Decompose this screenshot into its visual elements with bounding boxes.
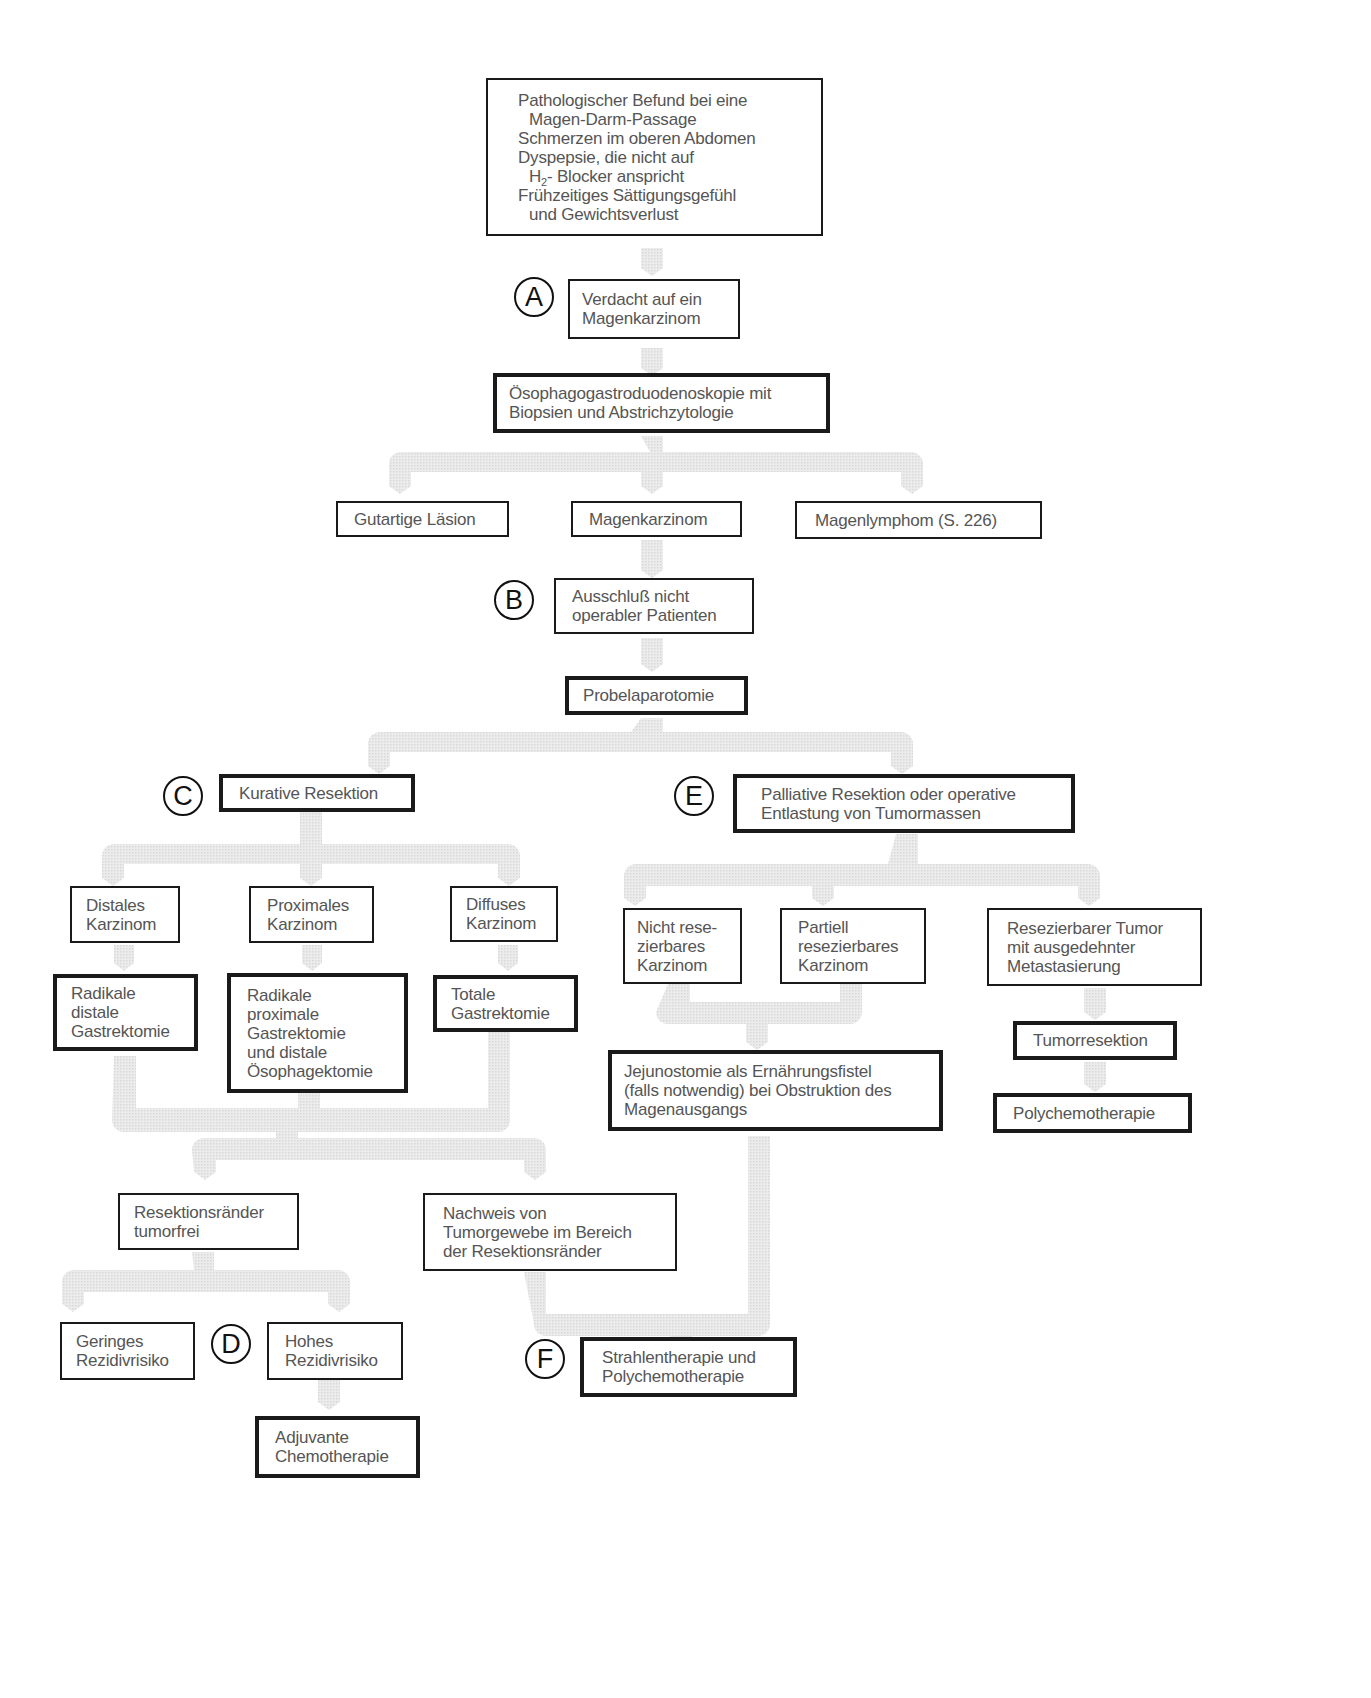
- node-text: tumorfrei: [134, 1222, 297, 1241]
- node-text: Distales: [86, 896, 178, 915]
- node-text: Tumorresektion: [1033, 1031, 1173, 1050]
- node-text: Nachweis von: [443, 1204, 675, 1223]
- node-curative-resection: Kurative Resektion: [219, 774, 415, 812]
- node-text: Totale: [451, 985, 574, 1004]
- node-text: Metastasierung: [1007, 957, 1200, 976]
- node-margins-tumor-free: Resektionsränder tumorfrei: [118, 1193, 299, 1250]
- node-text: Ösophagektomie: [247, 1062, 404, 1081]
- node-endoscopy: Ösophagogastroduodenoskopie mit Biopsien…: [493, 373, 830, 433]
- node-text: distale: [71, 1003, 194, 1022]
- marker-b: B: [494, 580, 534, 620]
- node-probelaparotomy: Probelaparotomie: [565, 676, 748, 715]
- node-text: operabler Patienten: [572, 606, 752, 625]
- node-text: Rezidivrisiko: [76, 1351, 193, 1370]
- node-non-resectable: Nicht rese- zierbares Karzinom: [623, 908, 742, 984]
- node-text: Resezierbarer Tumor: [1007, 919, 1200, 938]
- node-text: Palliative Resektion oder operative: [761, 785, 1071, 804]
- node-text: Karzinom: [466, 914, 556, 933]
- node-text: Verdacht auf ein: [582, 290, 738, 309]
- symptom-line: Dyspepsie, die nicht auf: [518, 148, 821, 167]
- node-text: (falls notwendig) bei Obstruktion des: [624, 1081, 939, 1100]
- connector-layer: [0, 0, 1371, 1698]
- node-text: Karzinom: [267, 915, 372, 934]
- node-text: Entlastung von Tumormassen: [761, 804, 1071, 823]
- node-diffuse-carcinoma: Diffuses Karzinom: [450, 886, 558, 942]
- node-text: Geringes: [76, 1332, 193, 1351]
- node-text: Adjuvante: [275, 1428, 416, 1447]
- node-text: Hohes: [285, 1332, 401, 1351]
- node-text: Chemotherapie: [275, 1447, 416, 1466]
- node-text: Rezidivrisiko: [285, 1351, 401, 1370]
- node-palliative-resection: Palliative Resektion oder operative Entl…: [733, 774, 1075, 833]
- node-text: Kurative Resektion: [239, 784, 411, 803]
- node-adjuvant-chemotherapy: Adjuvante Chemotherapie: [255, 1416, 420, 1478]
- marker-a: A: [514, 277, 554, 317]
- node-text: mit ausgedehnter: [1007, 938, 1200, 957]
- node-low-recurrence-risk: Geringes Rezidivrisiko: [60, 1322, 195, 1380]
- node-text: Ausschluß nicht: [572, 587, 752, 606]
- node-text: Karzinom: [798, 956, 924, 975]
- node-resectable-metastatic: Resezierbarer Tumor mit ausgedehnter Met…: [987, 908, 1202, 986]
- node-text: Gastrektomie: [247, 1024, 404, 1043]
- node-high-recurrence-risk: Hohes Rezidivrisiko: [267, 1322, 403, 1380]
- node-polychemotherapy: Polychemotherapie: [993, 1093, 1192, 1133]
- node-text: Karzinom: [637, 956, 740, 975]
- node-text: der Resektionsränder: [443, 1242, 675, 1261]
- node-partial-resectable: Partiell resezierbares Karzinom: [780, 908, 926, 984]
- symptom-line: Pathologischer Befund bei eine: [518, 91, 821, 110]
- h2-label: H: [529, 167, 541, 186]
- node-gastric-carcinoma: Magenkarzinom: [571, 501, 742, 537]
- marker-f: F: [525, 1339, 565, 1379]
- node-proximal-gastrectomy: Radikale proximale Gastrektomie und dist…: [227, 973, 408, 1093]
- node-text: Proximales: [267, 896, 372, 915]
- node-suspicion: Verdacht auf ein Magenkarzinom: [568, 279, 740, 339]
- node-text: Magenkarzinom: [582, 309, 738, 328]
- node-text: Radikale: [71, 984, 194, 1003]
- node-text: Biopsien und Abstrichzytologie: [509, 403, 826, 422]
- node-text: Resektionsränder: [134, 1203, 297, 1222]
- node-margins-tumor-present: Nachweis von Tumorgewebe im Bereich der …: [423, 1193, 677, 1271]
- node-text: Gastrektomie: [71, 1022, 194, 1041]
- node-text: Magenlymphom (S. 226): [815, 511, 1040, 530]
- node-text: Nicht rese-: [637, 918, 740, 937]
- marker-c: C: [163, 776, 203, 816]
- node-tumor-resection: Tumorresektion: [1013, 1021, 1177, 1060]
- blocker-text: - Blocker anspricht: [547, 167, 684, 186]
- node-text: proximale: [247, 1005, 404, 1024]
- symptom-line: H2- Blocker anspricht: [518, 167, 821, 186]
- node-text: zierbares: [637, 937, 740, 956]
- node-distal-gastrectomy: Radikale distale Gastrektomie: [53, 974, 198, 1051]
- node-text: Tumorgewebe im Bereich: [443, 1223, 675, 1242]
- flowchart-canvas: Pathologischer Befund bei eine Magen-Dar…: [0, 0, 1371, 1698]
- node-text: Jejunostomie als Ernährungsfistel: [624, 1062, 939, 1081]
- symptom-line: Schmerzen im oberen Abdomen: [518, 129, 821, 148]
- node-text: Ösophagogastroduodenoskopie mit: [509, 384, 826, 403]
- node-gastric-lymphoma: Magenlymphom (S. 226): [795, 501, 1042, 539]
- node-text: Karzinom: [86, 915, 178, 934]
- node-benign-lesion: Gutartige Läsion: [336, 501, 509, 537]
- node-radio-polychemotherapy: Strahlentherapie und Polychemotherapie: [580, 1337, 797, 1397]
- node-text: Magenausgangs: [624, 1100, 939, 1119]
- node-text: Polychemotherapie: [1013, 1104, 1188, 1123]
- node-text: und distale: [247, 1043, 404, 1062]
- node-text: Magenkarzinom: [589, 510, 740, 529]
- node-text: Probelaparotomie: [583, 686, 744, 705]
- node-text: Diffuses: [466, 895, 556, 914]
- marker-e: E: [674, 776, 714, 816]
- symptom-line: und Gewichtsverlust: [518, 205, 821, 224]
- node-text: Partiell: [798, 918, 924, 937]
- symptom-line: Magen-Darm-Passage: [518, 110, 821, 129]
- node-text: resezierbares: [798, 937, 924, 956]
- node-jejunostomy: Jejunostomie als Ernährungsfistel (falls…: [608, 1050, 943, 1131]
- node-distal-carcinoma: Distales Karzinom: [70, 886, 180, 943]
- node-exclusion: Ausschluß nicht operabler Patienten: [554, 578, 754, 634]
- symptom-line: Frühzeitiges Sättigungsgefühl: [518, 186, 821, 205]
- node-text: Polychemotherapie: [602, 1367, 793, 1386]
- node-text: Radikale: [247, 986, 404, 1005]
- node-text: Strahlentherapie und: [602, 1348, 793, 1367]
- marker-d: D: [211, 1324, 251, 1364]
- node-total-gastrectomy: Totale Gastrektomie: [433, 975, 578, 1032]
- node-proximal-carcinoma: Proximales Karzinom: [249, 886, 374, 943]
- node-text: Gutartige Läsion: [354, 510, 507, 529]
- node-text: Gastrektomie: [451, 1004, 574, 1023]
